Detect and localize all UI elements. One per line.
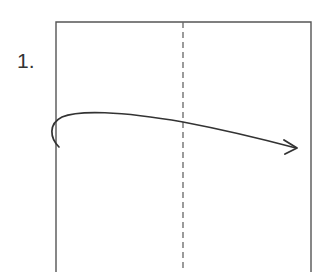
curved-fold-arrow-icon (52, 113, 297, 154)
fold-diagram (0, 0, 329, 272)
